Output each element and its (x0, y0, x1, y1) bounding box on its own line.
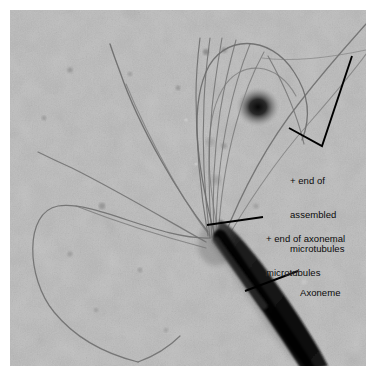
particle (99, 203, 105, 209)
annotation-assembled-line1: + end of (290, 175, 344, 186)
particle (128, 72, 132, 76)
particle (176, 86, 181, 91)
bright-speck (194, 162, 197, 165)
annotation-axonemal-line1: + end of axonemal (266, 233, 345, 244)
particle (67, 251, 72, 256)
particle (94, 308, 98, 312)
particle (253, 203, 258, 208)
particle (138, 268, 143, 273)
annotation-axoneme-line1: Axoneme (300, 287, 340, 298)
particle (42, 116, 47, 121)
electron-micrograph-figure: + end of assembled microtubules + end of… (0, 0, 376, 376)
particle (206, 138, 213, 145)
particle (67, 67, 72, 72)
particle (221, 47, 226, 52)
particle (203, 49, 209, 55)
dark-blob-large (236, 87, 280, 127)
particle (212, 176, 220, 184)
particle (221, 143, 227, 149)
annotation-axoneme: Axoneme (300, 264, 340, 321)
particle (164, 328, 168, 332)
bright-speck (184, 118, 188, 122)
